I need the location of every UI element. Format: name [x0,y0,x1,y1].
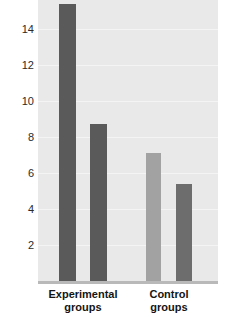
y-axis-tick-label: 14 [22,23,34,35]
y-axis-tick-label: 8 [28,131,34,143]
bar [176,184,192,281]
y-axis-tick-label: 4 [28,203,34,215]
y-axis-tick-label: 12 [22,59,34,71]
x-axis-category-label: Controlgroups [114,288,224,314]
bar [146,153,161,281]
plot-area [38,0,218,284]
category-label-line2: groups [114,301,224,314]
y-axis-tick-label: 10 [22,95,34,107]
bar [59,4,76,281]
y-axis-tick-label: 6 [28,167,34,179]
bar [90,124,107,281]
x-axis-category-labels: ExperimentalgroupsControlgroups [38,288,218,320]
category-label-line1: Experimental [48,288,117,300]
y-axis-tick-labels: 2468101214 [0,0,36,284]
bar-chart-figure: Mean imitative aggression scores 2468101… [0,0,225,320]
category-label-line1: Control [149,288,188,300]
y-axis-tick-label: 2 [28,239,34,251]
